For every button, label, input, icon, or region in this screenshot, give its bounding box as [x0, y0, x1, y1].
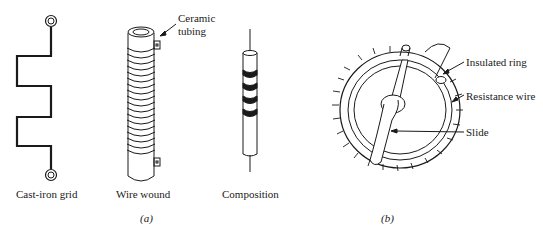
wire-wound-drawing — [127, 24, 176, 181]
cast-iron-grid-drawing — [17, 16, 57, 181]
resistance-wire-label: Resistance wire — [466, 90, 535, 102]
rheostat-drawing — [332, 44, 464, 171]
panel-b-caption: (b) — [381, 212, 394, 224]
ceramic-tubing-label-line2: tubing — [178, 25, 206, 37]
composition-label: Composition — [222, 188, 279, 200]
cast-iron-grid-label: Cast-iron grid — [16, 188, 77, 200]
wire-wound-label: Wire wound — [116, 188, 170, 200]
ceramic-tubing-label-line1: Ceramic — [178, 12, 215, 24]
panel-a-caption: (a) — [140, 212, 153, 224]
composition-drawing — [243, 29, 257, 172]
resistor-diagram — [0, 0, 543, 236]
slide-label: Slide — [466, 126, 489, 138]
insulated-ring-label: Insulated ring — [466, 56, 527, 68]
